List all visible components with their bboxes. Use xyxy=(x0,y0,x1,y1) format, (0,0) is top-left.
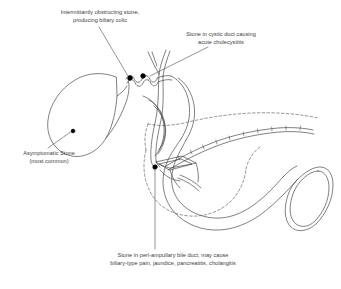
label-intermittent-obstructing-stone: Intermittantly obstructing stone, produc… xyxy=(34,9,166,24)
stone-asymptomatic-gallbladder xyxy=(71,129,75,133)
label-cystic-line1: Stone in cystic duct causing xyxy=(160,31,282,39)
gallstone-diagram: Intermittantly obstructing stone, produc… xyxy=(0,0,341,289)
hepatic-duct-confluence xyxy=(148,50,170,76)
label-periampullary-line1: Stone in peri-ampullary bile duct, may c… xyxy=(62,252,284,260)
label-asymptomatic-line2: (most common) xyxy=(2,158,96,166)
leader-lines xyxy=(48,27,208,249)
stone-cystic-duct-distal xyxy=(141,74,146,79)
ampulla-of-vater xyxy=(156,156,198,188)
label-cystic-line2: acute cholecystitis xyxy=(160,39,282,47)
stone-cystic-duct-neck xyxy=(128,76,133,81)
leader-line-intermittent xyxy=(99,27,128,76)
label-asymptomatic-stone: Asymptomatic Stone (most common) xyxy=(2,150,96,165)
label-intermittent-line1: Intermittantly obstructing stone, xyxy=(34,9,166,17)
label-intermittent-line2: producing biliary colic xyxy=(34,17,166,25)
gallbladder-infundibulum-line xyxy=(117,86,127,96)
stone-peri-ampullary xyxy=(153,165,158,170)
leader-line-cystic-duct xyxy=(150,47,208,76)
gallbladder-outline xyxy=(48,74,117,157)
label-asymptomatic-line1: Asymptomatic Stone xyxy=(2,150,96,158)
label-cystic-duct-stone: Stone in cystic duct causing acute chole… xyxy=(160,31,282,46)
leader-line-asymptomatic xyxy=(48,131,72,148)
pancreas-dashed-outline xyxy=(144,113,318,216)
cystic-duct-spiral xyxy=(126,76,172,87)
label-peri-ampullary-stone: Stone in peri-ampullary bile duct, may c… xyxy=(62,252,284,267)
label-periampullary-line2: biliary-type pain, jaundice, pancreatiti… xyxy=(62,260,284,268)
